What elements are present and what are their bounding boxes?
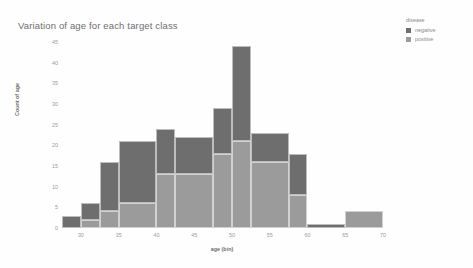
bar-segment-negative[interactable] <box>119 141 157 203</box>
legend-title: disease <box>406 17 468 23</box>
bar-stack[interactable] <box>345 42 383 228</box>
page-title: Variation of age for each target class <box>18 20 178 31</box>
plot-area <box>62 42 383 228</box>
bar-segment-positive[interactable] <box>289 195 308 228</box>
bar-segment-negative[interactable] <box>100 162 119 212</box>
x-axis-tick-label: 45 <box>191 232 197 238</box>
bar-segment-negative[interactable] <box>81 203 100 220</box>
y-axis-tick-label: 20 <box>52 142 58 148</box>
legend-item-negative[interactable]: negative <box>406 27 468 33</box>
x-axis-tick-label: 30 <box>78 232 84 238</box>
y-axis-tick-label: 25 <box>52 122 58 128</box>
x-axis-tick-label: 50 <box>229 232 235 238</box>
bar-segment-positive[interactable] <box>345 211 383 228</box>
bar-series-group <box>62 42 383 228</box>
y-axis-tick-label: 10 <box>52 184 58 190</box>
bar-segment-negative[interactable] <box>213 108 232 153</box>
y-axis-label: Count of age <box>14 83 20 116</box>
bar-segment-negative[interactable] <box>289 154 308 195</box>
bar-segment-positive[interactable] <box>175 174 213 228</box>
bar-segment-negative[interactable] <box>62 216 81 228</box>
legend-item-label: positive <box>415 36 433 42</box>
bar-stack[interactable] <box>213 42 232 228</box>
x-axis-tick-label: 65 <box>342 232 348 238</box>
bar-segment-positive[interactable] <box>100 211 119 228</box>
bar-segment-positive[interactable] <box>251 162 289 228</box>
x-axis-tick-label: 55 <box>267 232 273 238</box>
y-axis-tick-label: 15 <box>52 163 58 169</box>
bar-stack[interactable] <box>307 42 345 228</box>
bar-segment-positive[interactable] <box>81 220 100 228</box>
x-axis-tick-label: 35 <box>116 232 122 238</box>
legend: disease negativepositive <box>406 17 468 45</box>
x-axis-tick-label: 40 <box>153 232 159 238</box>
bar-stack[interactable] <box>232 42 251 228</box>
bar-stack[interactable] <box>62 42 81 228</box>
bar-stack[interactable] <box>81 42 100 228</box>
bar-stack[interactable] <box>289 42 308 228</box>
x-axis: 303540455055606570 <box>62 228 383 242</box>
bar-segment-negative[interactable] <box>232 46 251 141</box>
bar-segment-positive[interactable] <box>232 141 251 228</box>
y-axis-tick-label: 35 <box>52 80 58 86</box>
y-axis-tick-label: 40 <box>52 60 58 66</box>
bar-segment-negative[interactable] <box>251 133 289 162</box>
bar-segment-positive[interactable] <box>156 174 175 228</box>
legend-item-list: negativepositive <box>406 27 468 42</box>
bar-stack[interactable] <box>156 42 175 228</box>
legend-item-label: negative <box>415 27 435 33</box>
bar-segment-negative[interactable] <box>156 129 175 174</box>
x-axis-tick-label: 70 <box>380 232 386 238</box>
y-axis-tick-label: 45 <box>52 39 58 45</box>
legend-item-positive[interactable]: positive <box>406 36 468 42</box>
bar-stack[interactable] <box>100 42 119 228</box>
x-axis-label: age (bin) <box>211 246 233 252</box>
legend-swatch-icon <box>406 37 411 42</box>
y-axis-tick-label: 30 <box>52 101 58 107</box>
x-axis-tick-label: 60 <box>304 232 310 238</box>
y-axis-tick-label: 5 <box>55 204 58 210</box>
chart-canvas: Variation of age for each target class C… <box>0 0 473 268</box>
bar-segment-positive[interactable] <box>119 203 157 228</box>
bar-stack[interactable] <box>175 42 213 228</box>
bar-stack[interactable] <box>251 42 289 228</box>
legend-swatch-icon <box>406 28 411 33</box>
bar-segment-negative[interactable] <box>175 137 213 174</box>
y-axis: 051015202530354045 <box>30 42 60 228</box>
bar-segment-positive[interactable] <box>213 154 232 228</box>
y-axis-tick-label: 0 <box>55 225 58 231</box>
bar-stack[interactable] <box>119 42 157 228</box>
